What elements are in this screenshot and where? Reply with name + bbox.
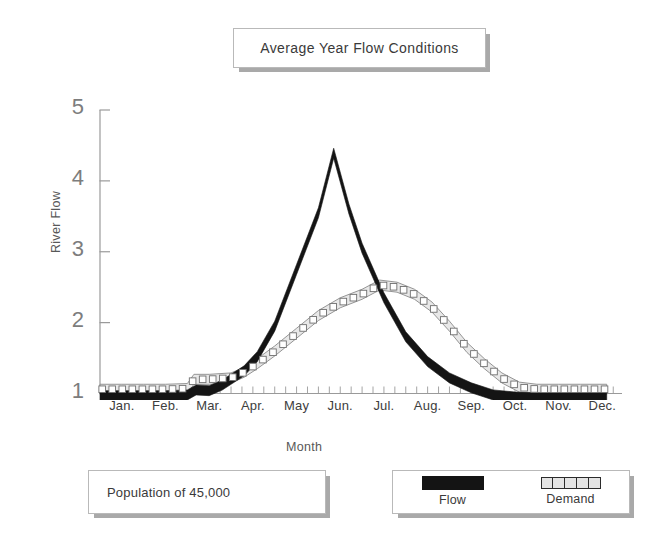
demand-marker	[109, 386, 116, 393]
demand-marker	[420, 298, 427, 305]
demand-marker	[551, 386, 558, 393]
demand-marker	[129, 386, 136, 393]
chart-legend: Flow Demand	[392, 470, 630, 514]
demand-marker	[491, 368, 498, 375]
demand-marker	[250, 363, 257, 370]
demand-marker	[451, 328, 458, 335]
demand-swatch-icon	[541, 477, 601, 489]
demand-marker	[139, 386, 146, 393]
demand-marker	[511, 381, 518, 388]
y-tick-label: 5	[56, 94, 84, 120]
demand-marker	[370, 285, 377, 292]
series-demand-line	[100, 280, 607, 394]
demand-marker	[400, 287, 407, 294]
legend-entry-flow: Flow	[422, 476, 484, 507]
demand-marker	[330, 304, 337, 311]
demand-marker	[229, 374, 236, 381]
demand-marker	[360, 290, 367, 297]
demand-marker	[340, 298, 347, 305]
y-tick-label: 3	[56, 236, 84, 262]
demand-marker	[219, 375, 226, 382]
series-flow-line	[100, 148, 607, 403]
demand-marker	[601, 386, 608, 393]
demand-marker	[501, 376, 508, 383]
demand-marker	[591, 386, 598, 393]
y-tick-marks	[100, 110, 111, 394]
demand-marker	[430, 306, 437, 313]
demand-marker	[531, 386, 538, 393]
y-tick-label: 4	[56, 165, 84, 191]
demand-marker	[280, 341, 287, 348]
demand-marker	[260, 356, 267, 363]
legend-label-demand: Demand	[546, 492, 594, 506]
demand-marker	[410, 291, 417, 298]
demand-marker	[471, 351, 478, 358]
demand-marker	[440, 317, 447, 324]
demand-marker	[561, 386, 568, 393]
x-tick-marks	[100, 387, 613, 394]
demand-marker	[380, 282, 387, 289]
demand-marker	[149, 386, 156, 393]
page-title: Average Year Flow Conditions	[260, 40, 459, 56]
demand-marker	[541, 386, 548, 393]
demand-marker	[240, 370, 247, 377]
series-demand-markers	[99, 282, 608, 392]
demand-marker	[320, 309, 327, 316]
y-tick-label: 1	[56, 378, 84, 404]
demand-marker	[159, 386, 166, 393]
y-tick-label: 2	[56, 307, 84, 333]
demand-marker	[270, 349, 277, 356]
demand-marker	[99, 386, 106, 393]
demand-marker	[461, 340, 468, 347]
demand-marker	[119, 386, 126, 393]
demand-marker	[189, 378, 196, 385]
chart-title-box: Average Year Flow Conditions	[233, 28, 486, 68]
demand-marker	[209, 376, 216, 383]
demand-marker	[199, 376, 206, 383]
legend-label-flow: Flow	[439, 493, 466, 507]
demand-marker	[310, 316, 317, 323]
flow-swatch-icon	[422, 476, 484, 490]
demand-marker	[481, 360, 488, 367]
demand-marker	[571, 386, 578, 393]
legend-entry-demand: Demand	[541, 477, 601, 506]
demand-marker	[169, 386, 176, 393]
demand-marker	[300, 325, 307, 332]
x-tick-label: Dec.	[576, 398, 628, 413]
chart-page: Average Year Flow Conditions River Flow …	[0, 0, 664, 555]
demand-marker	[581, 386, 588, 393]
axis-lines	[100, 110, 622, 394]
population-label: Population of 45,000	[89, 485, 230, 500]
demand-marker	[521, 384, 528, 391]
demand-marker	[390, 283, 397, 290]
x-axis-label: Month	[286, 440, 322, 454]
demand-marker	[350, 294, 357, 301]
demand-marker	[290, 333, 297, 340]
population-box: Population of 45,000	[88, 470, 326, 514]
demand-marker	[179, 385, 186, 392]
